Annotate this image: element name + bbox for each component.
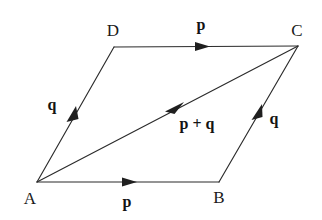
arrowhead-BC bbox=[252, 104, 263, 120]
vector-label-p-bottom: p bbox=[123, 193, 132, 211]
vector-label-q-right: q bbox=[270, 110, 279, 128]
vertex-label-C: C bbox=[291, 21, 302, 40]
arrowheads-group bbox=[67, 42, 263, 187]
vector-label-p-top: p bbox=[197, 16, 206, 34]
vertex-label-B: B bbox=[213, 188, 224, 207]
vector-label-q-left: q bbox=[48, 96, 57, 114]
arrowhead-DC bbox=[195, 42, 210, 51]
vector-label-p-plus-q: p + q bbox=[180, 115, 215, 133]
parallelogram-vector-diagram: A B C D p p q q p + q bbox=[0, 0, 322, 220]
arrowhead-AB bbox=[122, 178, 137, 187]
vertex-label-D: D bbox=[107, 21, 119, 40]
arrowhead-AD bbox=[67, 106, 79, 122]
vertex-label-A: A bbox=[24, 189, 37, 208]
arrowhead-AC bbox=[165, 102, 184, 114]
vector-addition-figure: A B C D p p q q p + q bbox=[0, 0, 322, 220]
